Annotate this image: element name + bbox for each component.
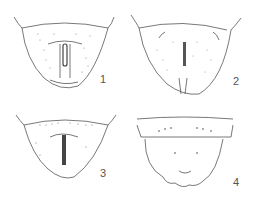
figure-3: 3 [0, 101, 128, 202]
figure-4-number: 4 [233, 176, 239, 188]
figure-1-drawing [0, 0, 128, 101]
figure-4: 4 [127, 101, 255, 202]
figure-3-number: 3 [100, 167, 106, 179]
figure-3-drawing [0, 101, 128, 202]
illustration-plate: 1 2 [0, 0, 255, 202]
figure-1-number: 1 [100, 73, 106, 85]
figure-2-number: 2 [233, 75, 239, 87]
figure-2: 2 [127, 0, 255, 101]
figure-1: 1 [0, 0, 128, 101]
